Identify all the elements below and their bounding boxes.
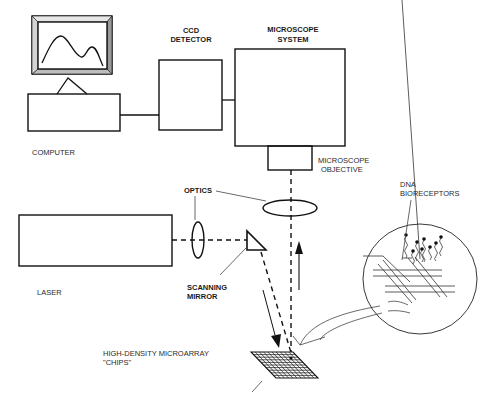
scanning-mirror-label-line1: SCANNING [187, 283, 227, 292]
objective-label-line1: MICROSCOPE [318, 156, 369, 165]
chip-leader [252, 381, 262, 392]
computer-label: COMPUTER [32, 148, 76, 157]
microarray-chip [251, 352, 318, 378]
dna-bioreceptors-inset [363, 0, 477, 334]
chips-label-line2: "CHIPS" [103, 358, 132, 367]
chips-label-line1: HIGH-DENSITY MICROARRAY [103, 349, 209, 358]
computer [28, 16, 120, 131]
laser [19, 215, 172, 266]
microarray-scanner-diagram: COMPUTER CCD DETECTOR MICROSCOPE SYSTEM … [0, 0, 490, 410]
laser-label: LASER [37, 288, 62, 297]
microscope-system-label-line2: SYSTEM [278, 35, 309, 44]
microscope-system-label-line1: MICROSCOPE [267, 25, 318, 34]
dna-label-line2: BIORECEPTORS [400, 189, 459, 198]
lens-horizontal [263, 200, 317, 216]
mirror-leader [220, 248, 246, 275]
dna-leader [402, 200, 411, 260]
ccd-label-line2: DETECTOR [170, 35, 212, 44]
ccd-detector [159, 60, 222, 130]
microscope-objective [268, 146, 312, 170]
optics-leader-to-lens [216, 191, 266, 201]
zoom-curved-arrow-icon [293, 301, 410, 345]
optics-label: OPTICS [184, 186, 212, 195]
monitor [32, 16, 112, 74]
arrow-up-icon [295, 241, 303, 254]
dna-label-line1: DNA [400, 180, 416, 189]
arrow-down-icon [271, 334, 281, 348]
ccd-label-line1: CCD [183, 26, 200, 35]
microscope-system [235, 49, 345, 146]
scanning-mirror-label-line2: MIRROR [187, 292, 218, 301]
scanning-mirror [247, 231, 266, 250]
objective-label-line2: OBJECTIVE [321, 165, 363, 174]
